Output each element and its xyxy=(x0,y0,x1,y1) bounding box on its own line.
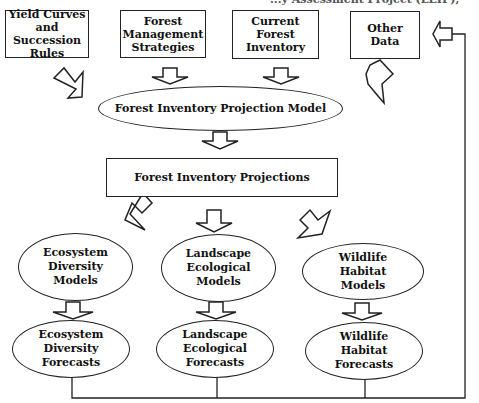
landscape-ecological-forecasts: Landscape Ecological Forecasts xyxy=(156,320,274,378)
arrow-down-icon xyxy=(196,302,236,319)
projection-model-label: Forest Inventory Projection Model xyxy=(115,102,326,116)
arrow-diagonal-icon xyxy=(366,60,393,103)
landscape-ecological-models: Landscape Ecological Models xyxy=(161,234,276,302)
model-label: Wildlife Habitat Models xyxy=(339,251,387,293)
arrow-left-icon xyxy=(433,21,452,47)
projection-model: Forest Inventory Projection Model xyxy=(98,86,343,131)
ecosystem-diversity-models: Ecosystem Diversity Models xyxy=(18,233,133,301)
arrow-down-icon xyxy=(202,132,238,149)
arrow-down-icon xyxy=(342,303,382,320)
input-label: Forest Management Strategies xyxy=(123,15,204,54)
input-label: Current Forest Inventory xyxy=(246,15,305,54)
arrow-diagonal-icon xyxy=(298,210,330,238)
input-label: Yield Curves and Succession Rules xyxy=(6,8,88,60)
model-label: Landscape Ecological Models xyxy=(186,247,251,289)
wildlife-habitat-models: Wildlife Habitat Models xyxy=(302,243,424,300)
arrow-down-icon xyxy=(53,302,93,319)
forecast-label: Wildlife Habitat Forecasts xyxy=(335,330,394,372)
input-label: Other Data xyxy=(367,22,402,48)
input-other-data: Other Data xyxy=(350,11,420,59)
input-yield-curves: Yield Curves and Succession Rules xyxy=(5,10,89,58)
arrow-down-icon xyxy=(263,68,299,84)
forecast-label: Ecosystem Diversity Forecasts xyxy=(39,328,104,370)
arrow-down-icon xyxy=(152,68,188,84)
input-management-strategies: Forest Management Strategies xyxy=(120,10,206,58)
inventory-projections: Forest Inventory Projections xyxy=(106,158,338,197)
input-current-inventory: Current Forest Inventory xyxy=(232,10,319,59)
projections-label: Forest Inventory Projections xyxy=(134,171,309,184)
arrow-down-icon xyxy=(196,210,232,232)
ecosystem-diversity-forecasts: Ecosystem Diversity Forecasts xyxy=(12,320,130,378)
arrow-diagonal-icon xyxy=(54,68,83,98)
model-label: Ecosystem Diversity Models xyxy=(43,246,108,288)
arrow-diagonal-icon xyxy=(125,193,152,230)
wildlife-habitat-forecasts: Wildlife Habitat Forecasts xyxy=(305,322,423,380)
forecast-label: Landscape Ecological Forecasts xyxy=(182,328,247,370)
